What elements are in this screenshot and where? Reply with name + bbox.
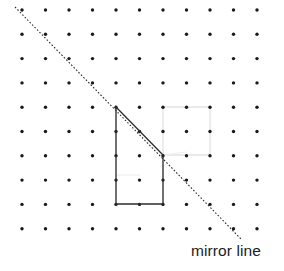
grid-dot-r2-c4 <box>114 57 117 60</box>
grid-dot-r8-c2 <box>67 203 70 206</box>
grid-dot-r9-c5 <box>138 227 141 230</box>
grid-dot-r4-c10 <box>255 106 258 109</box>
grid-dot-r4-c7 <box>185 106 188 109</box>
grid-dot-r3-c3 <box>91 81 94 84</box>
grid-dot-r7-c5 <box>138 178 141 181</box>
grid-dot-r5-c7 <box>185 130 188 133</box>
mirror-line-label: mirror line <box>191 243 261 259</box>
grid-dot-r4-c0 <box>20 106 23 109</box>
grid-dot-r2-c9 <box>232 57 235 60</box>
grid-dot-r5-c6 <box>161 130 164 133</box>
grid-dot-r7-c8 <box>208 178 211 181</box>
grid-dot-r1-c5 <box>138 33 141 36</box>
grid-dot-r3-c7 <box>185 81 188 84</box>
grid-dot-r4-c2 <box>67 106 70 109</box>
grid-dot-r2-c5 <box>138 57 141 60</box>
grid-dot-r3-c10 <box>255 81 258 84</box>
grid-dot-r9-c0 <box>20 227 23 230</box>
grid-dot-r7-c0 <box>20 178 23 181</box>
grid-dot-r2-c3 <box>91 57 94 60</box>
grid-dot-r0-c7 <box>185 8 188 11</box>
grid-dot-r5-c2 <box>67 130 70 133</box>
grid-dot-r6-c7 <box>185 154 188 157</box>
grid-dot-r1-c9 <box>232 33 235 36</box>
grid-dot-r1-c8 <box>208 33 211 36</box>
grid-dot-r3-c6 <box>161 81 164 84</box>
grid-dot-r1-c4 <box>114 33 117 36</box>
diagram-canvas: mirror line <box>0 0 284 271</box>
grid-dot-r3-c2 <box>67 81 70 84</box>
grid-dot-r9-c2 <box>67 227 70 230</box>
grid-dot-r9-c8 <box>208 227 211 230</box>
grid-dot-r2-c0 <box>20 57 23 60</box>
grid-dot-r0-c3 <box>91 8 94 11</box>
grid-dot-r6-c0 <box>20 154 23 157</box>
grid-dot-r7-c9 <box>232 178 235 181</box>
grid-dot-r1-c2 <box>67 33 70 36</box>
grid-dot-r8-c9 <box>232 203 235 206</box>
grid-dot-r4-c9 <box>232 106 235 109</box>
grid-dot-r2-c8 <box>208 57 211 60</box>
grid-dot-r0-c6 <box>161 8 164 11</box>
grid-dot-r9-c3 <box>91 227 94 230</box>
grid-dot-r5-c10 <box>255 130 258 133</box>
grid-dot-r8-c1 <box>44 203 47 206</box>
grid-dot-r9-c10 <box>255 227 258 230</box>
grid-dot-r7-c2 <box>67 178 70 181</box>
grid-dot-r1-c6 <box>161 33 164 36</box>
grid-dot-r6-c1 <box>44 154 47 157</box>
grid-dot-r3-c8 <box>208 81 211 84</box>
grid-dot-r7-c1 <box>44 178 47 181</box>
grid-dot-r0-c9 <box>232 8 235 11</box>
diagram-svg <box>0 0 284 271</box>
grid-dot-r7-c7 <box>185 178 188 181</box>
grid-dot-r0-c1 <box>44 8 47 11</box>
grid-dot-r1-c10 <box>255 33 258 36</box>
grid-dot-r1-c3 <box>91 33 94 36</box>
grid-dot-r0-c2 <box>67 8 70 11</box>
grid-dot-r6-c10 <box>255 154 258 157</box>
grid-dot-r3-c1 <box>44 81 47 84</box>
grid-dot-r6-c5 <box>138 154 141 157</box>
grid-dot-r0-c5 <box>138 8 141 11</box>
grid-dot-r4-c8 <box>208 106 211 109</box>
grid-dot-r5-c1 <box>44 130 47 133</box>
grid-dot-r2-c6 <box>161 57 164 60</box>
grid-dot-r5-c3 <box>91 130 94 133</box>
grid-dot-r0-c4 <box>114 8 117 11</box>
grid-dot-r6-c9 <box>232 154 235 157</box>
grid-dot-r9-c4 <box>114 227 117 230</box>
grid-dot-r2-c7 <box>185 57 188 60</box>
grid-dot-r1-c7 <box>185 33 188 36</box>
grid-dot-r3-c4 <box>114 81 117 84</box>
grid-dot-r0-c0 <box>20 8 23 11</box>
canvas-background <box>0 0 284 271</box>
grid-dot-r8-c0 <box>20 203 23 206</box>
grid-dot-r9-c7 <box>185 227 188 230</box>
grid-dot-r0-c10 <box>255 8 258 11</box>
grid-dot-r3-c5 <box>138 81 141 84</box>
grid-dot-r5-c8 <box>208 130 211 133</box>
grid-dot-r4-c3 <box>91 106 94 109</box>
grid-dot-r7-c3 <box>91 178 94 181</box>
grid-dot-r4-c5 <box>138 106 141 109</box>
grid-dot-r8-c10 <box>255 203 258 206</box>
grid-dot-r2-c2 <box>67 57 70 60</box>
grid-dot-r3-c9 <box>232 81 235 84</box>
grid-dot-r7-c10 <box>255 178 258 181</box>
grid-dot-r6-c3 <box>91 154 94 157</box>
grid-dot-r3-c0 <box>20 81 23 84</box>
grid-dot-r4-c6 <box>161 106 164 109</box>
grid-dot-r2-c10 <box>255 57 258 60</box>
grid-dot-r2-c1 <box>44 57 47 60</box>
grid-dot-r4-c1 <box>44 106 47 109</box>
grid-dot-r0-c8 <box>208 8 211 11</box>
grid-dot-r6-c8 <box>208 154 211 157</box>
grid-dot-r6-c2 <box>67 154 70 157</box>
grid-dot-r1-c1 <box>44 33 47 36</box>
grid-dot-r8-c7 <box>185 203 188 206</box>
grid-dot-r9-c1 <box>44 227 47 230</box>
grid-dot-r9-c9 <box>232 227 235 230</box>
grid-dot-r5-c0 <box>20 130 23 133</box>
grid-dot-r5-c9 <box>232 130 235 133</box>
